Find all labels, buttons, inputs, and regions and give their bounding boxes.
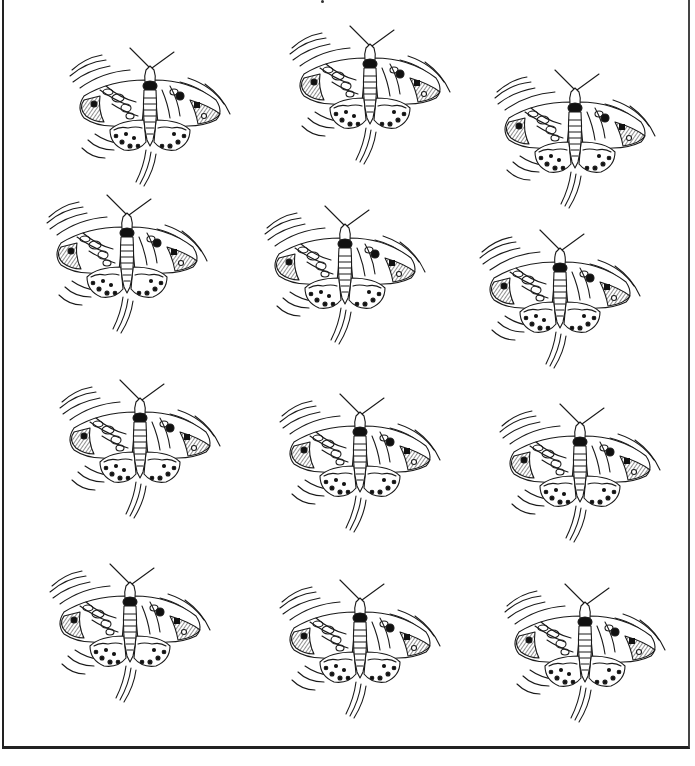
butterfly-drawing bbox=[70, 48, 230, 186]
butterfly-drawing bbox=[480, 230, 640, 368]
butterfly-drawing bbox=[265, 206, 425, 344]
butterfly-drawing bbox=[280, 580, 440, 718]
butterfly-drawing bbox=[505, 584, 665, 722]
butterfly-drawing bbox=[47, 195, 207, 333]
butterfly-drawing bbox=[50, 564, 210, 702]
butterfly-drawing bbox=[495, 70, 655, 208]
butterfly-illustration-grid bbox=[0, 0, 695, 766]
butterfly-drawing bbox=[280, 394, 440, 532]
butterfly-drawing bbox=[290, 26, 450, 164]
butterfly-layer bbox=[47, 26, 665, 722]
butterfly-drawing bbox=[500, 404, 660, 542]
butterfly-drawing bbox=[60, 380, 220, 518]
